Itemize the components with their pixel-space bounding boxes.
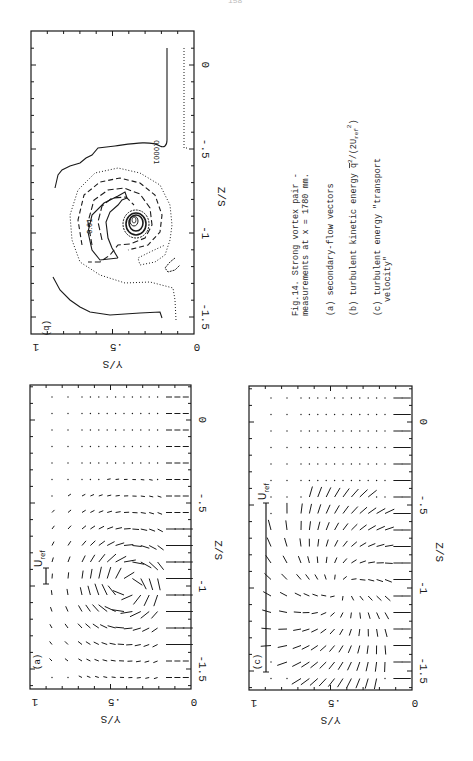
contour-dotted-right: [184, 48, 188, 148]
y-axis-title-a: Y/S: [100, 713, 120, 725]
contour-dashed-small: [165, 258, 180, 272]
panel-a: Uref (a): [30, 385, 193, 689]
contour-dotted-outer: [70, 168, 176, 320]
panel-b-ticks: [31, 31, 194, 334]
contour-0.0001-top: [55, 48, 167, 188]
z-tick-c-3: -1.5: [417, 657, 429, 683]
y-tick-c-0: 1: [250, 697, 257, 709]
figure-canvas: 0.0001 0.01 (b) Uref (a: [0, 0, 473, 761]
uref-label-a: Uref: [33, 550, 47, 567]
panel-c-label: (c): [253, 654, 263, 670]
caption-title-1: Fig.14. Strong vortex pair -: [291, 173, 301, 316]
caption-item-c-1: (c) turbulent energy "transport: [373, 158, 383, 316]
y-tick-b-1: .5: [110, 341, 123, 353]
z-tick-a-2: -1: [196, 579, 208, 593]
y-tick-b-2: 0: [194, 341, 201, 353]
z-tick-a-0: 0: [196, 417, 208, 424]
z-axis-title-b: Z/S: [215, 187, 227, 207]
panel-a-label: (a): [33, 654, 43, 670]
z-axis-title-c: Z/S: [433, 542, 445, 562]
z-tick-b-1: -.5: [199, 139, 211, 159]
y-tick-c-2: 0: [412, 697, 419, 709]
panel-a-vectors: [50, 396, 193, 678]
caption-item-b: (b) turbulent kinetic energy q2/(2Uref2): [346, 119, 360, 316]
panel-b: 0.0001 0.01 (b): [31, 31, 194, 336]
panel-b-frame: [31, 31, 194, 334]
z-tick-b-3: -1.5: [199, 303, 211, 329]
contour-0.0001-bottom: [53, 277, 162, 318]
panel-c-frame: [249, 386, 412, 690]
panel-b-label: (b): [41, 320, 51, 336]
panel-c: Uref (c): [249, 386, 412, 690]
z-tick-b-0: 0: [199, 62, 211, 69]
y-axis-title-b: Y/S: [102, 358, 122, 370]
y-tick-a-2: 0: [191, 696, 198, 708]
z-tick-c-2: -1: [417, 581, 429, 595]
caption-item-c-2: velocity": [383, 256, 393, 302]
caption-title-2: measurements at x = 1780 mm.: [301, 173, 311, 316]
caption-item-a: (a) secondary-flow vectors: [326, 183, 336, 316]
y-axis-title-c: Y/S: [320, 714, 340, 726]
z-tick-b-2: -1: [199, 226, 211, 240]
panel-c-ticks: [249, 386, 412, 690]
contour-label-0.0001: 0.0001: [152, 140, 160, 165]
panel-c-vectors: [261, 397, 411, 689]
y-tick-a-1: .5: [108, 696, 121, 708]
z-tick-a-1: -.5: [196, 493, 208, 513]
z-tick-a-3: -1.5: [196, 655, 208, 681]
z-tick-c-1: -.5: [417, 495, 429, 515]
y-tick-c-1: .5: [328, 697, 341, 709]
vortex-core-contours: [123, 210, 149, 238]
z-axis-title-a: Z/S: [212, 540, 224, 560]
contour-label-0.01: 0.01: [86, 218, 94, 234]
y-tick-a-0: 1: [31, 696, 38, 708]
y-tick-b-0: 1: [32, 341, 39, 353]
z-tick-c-0: 0: [417, 419, 429, 426]
uref-label-c: Uref: [257, 483, 271, 500]
figure-caption: Fig.14. Strong vortex pair - measurement…: [291, 119, 393, 316]
